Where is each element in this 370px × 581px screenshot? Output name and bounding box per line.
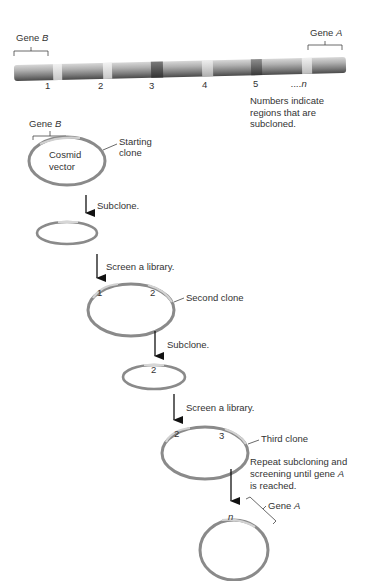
subclone-step-2: Subclone. — [167, 339, 209, 350]
diagram-canvas — [0, 0, 370, 581]
region-number-3: 3 — [149, 80, 154, 91]
third-clone-leader — [248, 440, 259, 444]
region-number-4: 4 — [202, 79, 207, 90]
region-band-3 — [151, 61, 163, 77]
regions-note: Numbers indicate regions that are subclo… — [250, 95, 324, 130]
repeat-note: Repeat subcloning and screening until ge… — [250, 456, 347, 492]
region-number-1: 1 — [45, 80, 50, 91]
starting-clone-leader — [103, 144, 117, 150]
subclone-2-mark: 2 — [151, 364, 156, 375]
second-clone-leader — [174, 298, 184, 302]
third-clone-mark-2: 2 — [174, 428, 179, 439]
gene-b-label: Gene B — [16, 32, 48, 43]
region-band-1 — [53, 64, 62, 80]
screen-step-2: Screen a library. — [186, 402, 254, 413]
region-band-4 — [202, 60, 213, 76]
third-clone-mark-3: 3 — [219, 430, 224, 441]
gene-b-bracket — [14, 47, 48, 56]
second-clone-label: Second clone — [186, 292, 244, 303]
final-gene-a-label: Gene A — [268, 500, 300, 511]
region-band-2 — [103, 63, 112, 79]
screen-step-1: Screen a library. — [106, 261, 174, 272]
gene-a-label: Gene A — [310, 27, 342, 38]
start-gene-b-label: Gene B — [29, 118, 61, 129]
cosmid-vector-label: Cosmid vector — [49, 149, 81, 173]
final-clone-mark-n: n — [228, 511, 233, 522]
region-number-5: 5 — [253, 78, 258, 89]
region-number-n: ....n — [291, 78, 307, 89]
region-band-5 — [251, 59, 262, 75]
region-band-n — [302, 58, 312, 74]
starting-clone-label: Starting clone — [119, 136, 152, 158]
third-clone-label: Third clone — [261, 433, 308, 444]
final-clone-ring — [200, 520, 268, 580]
region-number-2: 2 — [98, 80, 103, 91]
second-clone-mark-2: 2 — [150, 287, 155, 298]
second-clone-mark-1: 1 — [97, 287, 102, 298]
subclone-ring-1 — [37, 222, 97, 244]
gene-a-bracket — [308, 41, 342, 50]
subclone-step-1: Subclone. — [97, 200, 139, 211]
